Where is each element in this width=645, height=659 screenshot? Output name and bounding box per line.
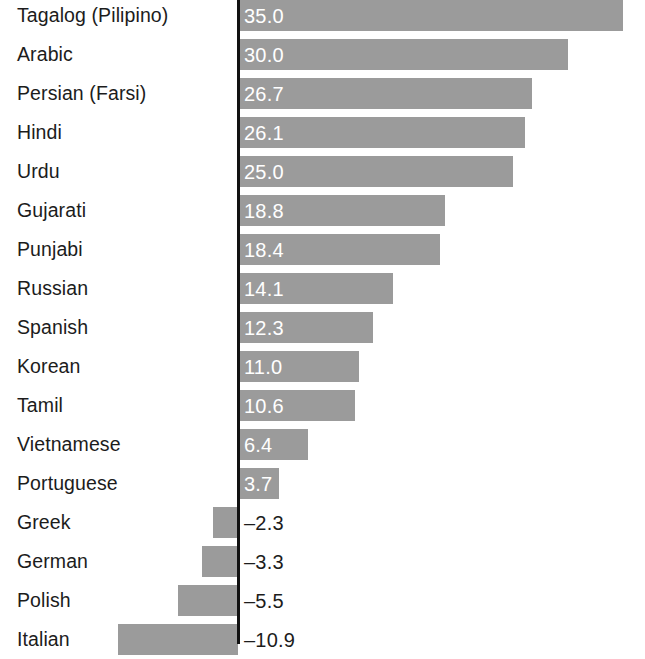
category-label: Spanish bbox=[17, 308, 88, 347]
zero-axis-line bbox=[237, 0, 240, 644]
chart-row: Tamil10.6 bbox=[0, 386, 645, 425]
bar bbox=[213, 507, 238, 538]
chart-row: Spanish12.3 bbox=[0, 308, 645, 347]
chart-row: Vietnamese6.4 bbox=[0, 425, 645, 464]
bar bbox=[238, 39, 568, 70]
chart-row: Tagalog (Pilipino)35.0 bbox=[0, 0, 645, 35]
bar-value-label: 10.6 bbox=[244, 386, 284, 425]
bar-value-label: 30.0 bbox=[244, 35, 284, 74]
category-label: Gujarati bbox=[17, 191, 86, 230]
category-label: Korean bbox=[17, 347, 80, 386]
bar-value-label: 26.1 bbox=[244, 113, 284, 152]
chart-row: Arabic30.0 bbox=[0, 35, 645, 74]
chart-row: Russian14.1 bbox=[0, 269, 645, 308]
bar-value-label: –3.3 bbox=[244, 542, 284, 581]
chart-row: Persian (Farsi)26.7 bbox=[0, 74, 645, 113]
bar-value-label: 18.4 bbox=[244, 230, 284, 269]
category-label: Tamil bbox=[17, 386, 63, 425]
category-label: Urdu bbox=[17, 152, 60, 191]
bar-value-label: 14.1 bbox=[244, 269, 284, 308]
category-label: Persian (Farsi) bbox=[17, 74, 146, 113]
category-label: Vietnamese bbox=[17, 425, 121, 464]
category-label: Greek bbox=[17, 503, 71, 542]
chart-row: Gujarati18.8 bbox=[0, 191, 645, 230]
bar bbox=[202, 546, 238, 577]
category-label: Russian bbox=[17, 269, 88, 308]
category-label: Polish bbox=[17, 581, 71, 620]
category-label: Arabic bbox=[17, 35, 73, 74]
bar-value-label: –2.3 bbox=[244, 503, 284, 542]
category-label: Italian bbox=[17, 620, 70, 659]
bar bbox=[178, 585, 239, 616]
category-label: Portuguese bbox=[17, 464, 118, 503]
chart-row: Urdu25.0 bbox=[0, 152, 645, 191]
chart-row: Korean11.0 bbox=[0, 347, 645, 386]
chart-row: Greek–2.3 bbox=[0, 503, 645, 542]
chart-row: Polish–5.5 bbox=[0, 581, 645, 620]
bar-value-label: 25.0 bbox=[244, 152, 284, 191]
bar-value-label: 6.4 bbox=[244, 425, 272, 464]
bar-value-label: 35.0 bbox=[244, 0, 284, 35]
chart-row: German–3.3 bbox=[0, 542, 645, 581]
bar-value-label: 18.8 bbox=[244, 191, 284, 230]
category-label: Hindi bbox=[17, 113, 62, 152]
chart-row: Punjabi18.4 bbox=[0, 230, 645, 269]
category-label: German bbox=[17, 542, 88, 581]
chart-row: Hindi26.1 bbox=[0, 113, 645, 152]
chart-row: Portuguese3.7 bbox=[0, 464, 645, 503]
bar bbox=[238, 0, 623, 31]
bar-value-label: 12.3 bbox=[244, 308, 284, 347]
category-label: Punjabi bbox=[17, 230, 83, 269]
bar-value-label: –5.5 bbox=[244, 581, 284, 620]
bar-value-label: 3.7 bbox=[244, 464, 272, 503]
bar-value-label: 11.0 bbox=[244, 347, 282, 386]
category-label: Tagalog (Pilipino) bbox=[17, 0, 168, 35]
chart-row: Italian–10.9 bbox=[0, 620, 645, 659]
bar-value-label: 26.7 bbox=[244, 74, 284, 113]
bar-value-label: –10.9 bbox=[244, 620, 295, 659]
bar bbox=[118, 624, 238, 655]
